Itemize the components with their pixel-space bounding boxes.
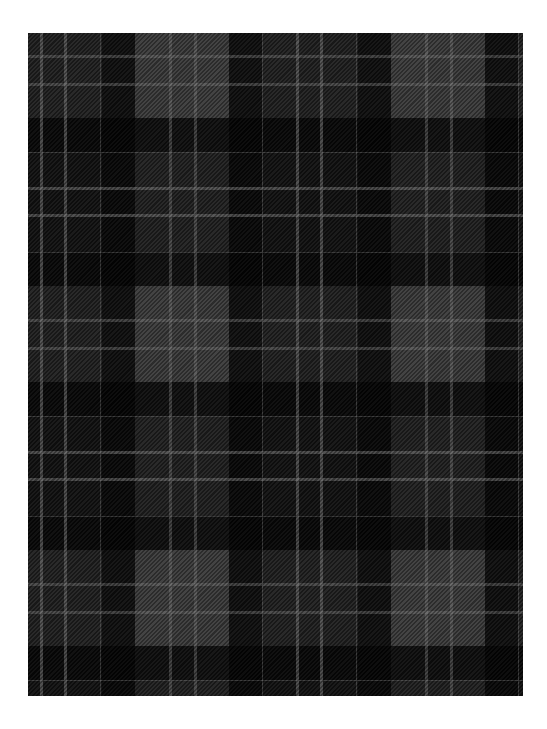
twill-texture [28, 33, 523, 696]
tartan-fabric [28, 33, 523, 696]
